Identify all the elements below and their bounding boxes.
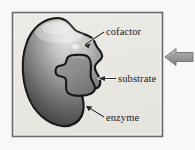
enzyme-diagram-svg: cofactor substrate enzyme [0, 0, 195, 150]
label-enzyme: enzyme [106, 112, 139, 123]
cofactor-highlight [71, 44, 78, 49]
label-substrate: substrate [118, 73, 156, 84]
label-cofactor: cofactor [106, 26, 142, 37]
figure-canvas: cofactor substrate enzyme [0, 0, 195, 150]
enzyme-specular-core [42, 22, 70, 34]
